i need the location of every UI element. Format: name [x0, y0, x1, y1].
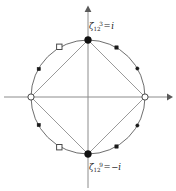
label-top-value: i: [111, 21, 114, 31]
root-point-k4: [57, 44, 62, 49]
label-bottom-value: −i: [111, 162, 121, 172]
root-point-k7: [37, 123, 40, 126]
label-zeta-cubed-equals-i: ζ123=i: [89, 22, 114, 32]
complex-plane-figure: ζ123=i ζ129=−i: [0, 0, 176, 191]
label-top-relation: =: [104, 21, 111, 31]
root-point-k5: [37, 67, 40, 70]
imaginary-axis-arrowhead: [85, 6, 92, 13]
label-bottom-superscript: 9: [99, 162, 103, 168]
root-point-k1: [136, 67, 139, 70]
root-point-k10: [115, 145, 118, 148]
roots-of-unity-plot: [0, 0, 176, 191]
root-point-k8: [57, 145, 62, 150]
real-axis-arrowhead: [167, 94, 173, 101]
root-point-k0: [142, 94, 148, 100]
label-top-superscript: 3: [99, 21, 103, 27]
label-bottom-relation: =: [104, 162, 111, 172]
root-point-k9: [85, 151, 92, 158]
root-point-k11: [136, 124, 139, 127]
root-point-k6: [28, 94, 34, 100]
root-point-k2: [115, 46, 118, 49]
root-point-k3: [85, 37, 92, 44]
label-zeta-ninth-equals-minus-i: ζ129=−i: [89, 163, 121, 173]
